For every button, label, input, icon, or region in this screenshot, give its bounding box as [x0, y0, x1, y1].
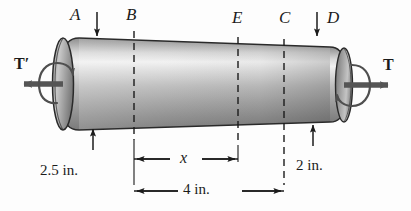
dimension-label-partial-length: x: [180, 150, 187, 166]
dimension-label-left-diameter: 2.5 in.: [40, 163, 78, 178]
tapered-shaft-body: [79, 38, 330, 130]
dimension-label-right-diameter: 2 in.: [296, 158, 323, 173]
section-label-d: D: [327, 9, 339, 26]
figure-drawing: [0, 0, 411, 211]
torque-label-right: T: [383, 57, 394, 73]
section-label-b: B: [126, 6, 136, 23]
section-label-e: E: [232, 9, 242, 26]
figure-container: A B E C D T′ T 2.5 in. 2 in. x 4 in.: [0, 0, 411, 211]
section-label-a: A: [70, 6, 80, 23]
torque-label-left: T′: [14, 56, 29, 72]
dimension-label-total-length: 4 in.: [183, 182, 210, 197]
section-label-c: C: [279, 9, 290, 26]
